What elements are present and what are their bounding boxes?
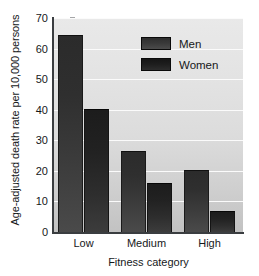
bar-women-medium (147, 183, 172, 232)
x-axis-title: Fitness category (54, 256, 243, 268)
bar-men-high (184, 170, 209, 232)
y-tick-label: 30 (22, 134, 48, 146)
bar-men-low (58, 35, 83, 232)
bar-men-medium (121, 151, 146, 232)
legend-item-men: Men (141, 33, 241, 54)
x-axis-tick-labels: LowMediumHigh (54, 237, 243, 253)
y-tick-label: 10 (22, 195, 48, 207)
y-tick-label: 0 (22, 226, 48, 238)
legend-item-women: Women (141, 54, 241, 75)
x-tick-label-medium: Medium (127, 237, 166, 249)
x-axis-line (52, 232, 244, 234)
y-tick-label: 60 (22, 43, 48, 55)
y-tick-label: 70 (22, 12, 48, 24)
y-tick-label: 40 (22, 104, 48, 116)
y-tick-label: 50 (22, 73, 48, 85)
gridline (54, 18, 243, 19)
y-axis-title: Age-adjusted death rate per 10,000 perso… (9, 6, 21, 234)
legend-swatch-men-icon (141, 37, 171, 50)
y-axis-tick-labels: 010203040506070 (22, 0, 48, 276)
x-tick-label-high: High (198, 237, 221, 249)
legend-label-men: Men (179, 38, 201, 50)
bar-women-low (84, 109, 109, 232)
bar-chart-figure: Age-adjusted death rate per 10,000 perso… (0, 0, 259, 276)
legend-swatch-women-icon (141, 58, 171, 71)
bar-women-high (210, 211, 235, 232)
legend-label-women: Women (179, 59, 218, 71)
x-tick-label-low: Low (73, 237, 93, 249)
chart-legend: Men Women (141, 33, 241, 75)
y-tick-label: 20 (22, 165, 48, 177)
